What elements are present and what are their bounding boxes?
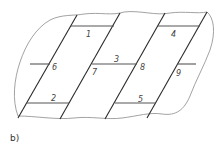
figure-caption: b): [10, 133, 19, 143]
label-2: 2: [51, 94, 56, 103]
label-1: 1: [86, 30, 91, 39]
label-4: 4: [171, 30, 176, 39]
label-5: 5: [138, 95, 143, 104]
label-3: 3: [114, 55, 119, 64]
diagram: 1 2 3 4 5 6 7 8 9: [0, 0, 222, 151]
label-7: 7: [92, 68, 98, 77]
label-9: 9: [176, 69, 181, 78]
label-8: 8: [140, 63, 145, 72]
label-6: 6: [52, 63, 57, 72]
